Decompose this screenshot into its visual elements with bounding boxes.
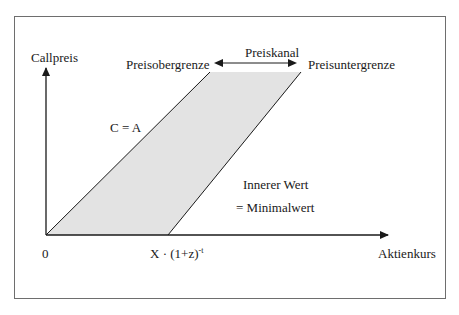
x-axis-label: Aktienkurs <box>378 247 436 260</box>
arrowhead-left-icon <box>214 59 223 67</box>
intrinsic-value-label: Innerer Wert <box>243 178 308 191</box>
x-tick-exponent: -t <box>198 246 203 255</box>
y-axis-label: Callpreis <box>31 51 78 64</box>
lower-bound-label: Preisuntergrenze <box>308 58 395 71</box>
price-channel-diagram <box>0 0 459 315</box>
upper-bound-line-label: C = A <box>110 121 141 134</box>
origin-label: 0 <box>42 247 49 260</box>
x-tick-label: X · (1+z)-t <box>150 247 203 260</box>
arrowhead-right-icon <box>288 59 297 67</box>
channel-label: Preiskanal <box>245 46 299 59</box>
x-tick-base: X · (1+z) <box>150 246 198 261</box>
minimum-value-label: = Minimalwert <box>236 201 314 214</box>
upper-bound-label: Preisobergrenze <box>126 58 210 71</box>
